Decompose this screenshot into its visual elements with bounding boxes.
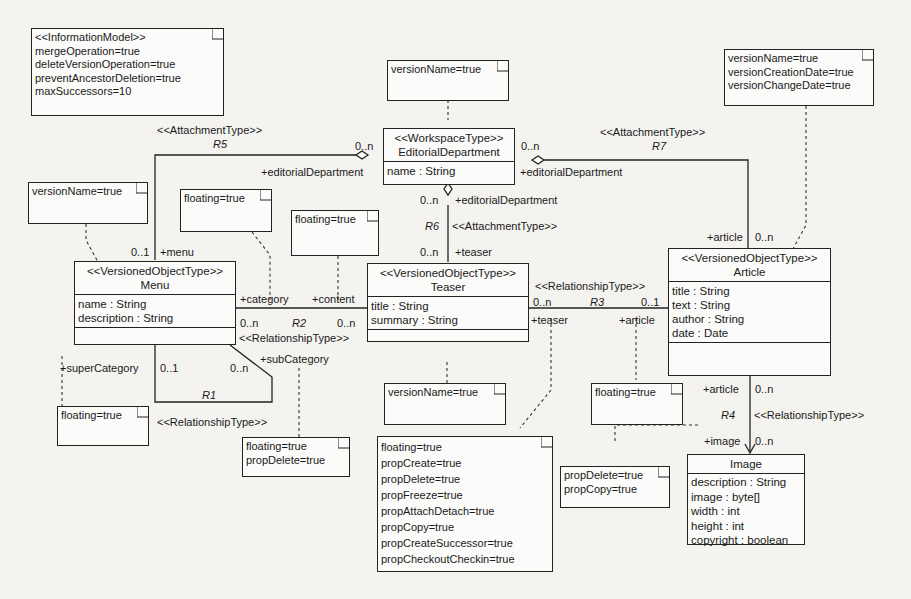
note-line: propCopy=true <box>564 483 655 497</box>
note-fold-icon <box>136 182 148 194</box>
r3-article-floating-note: floating=true <box>591 383 683 425</box>
attribute: description : String <box>78 311 232 325</box>
subcategory-note: floating=true propDelete=true <box>242 437 350 477</box>
note-fold-icon <box>671 383 683 395</box>
class-image[interactable]: Image description : String image : byte[… <box>687 454 805 545</box>
attribute: title : String <box>371 299 525 313</box>
class-attributes: title : String text : String author : St… <box>669 282 830 343</box>
r3-right-multiplicity: 0..1 <box>641 296 659 308</box>
note-line: versionName=true <box>388 386 491 400</box>
class-editorial-department[interactable]: <<WorkspaceType>> EditorialDepartment na… <box>383 128 515 185</box>
r6-ws-role: +editorialDepartment <box>455 194 557 206</box>
r6-ws-multiplicity: 0..n <box>420 194 438 206</box>
attribute: author : String <box>672 312 827 326</box>
r2-left-role: +category <box>240 293 289 305</box>
r7-stereotype: <<AttachmentType>> <box>600 126 705 138</box>
note-line: floating=true <box>61 409 134 423</box>
r3-name: R3 <box>590 296 604 308</box>
note-fold-icon <box>137 406 149 418</box>
note-fold-icon <box>494 383 506 395</box>
note-line: versionChangeDate=true <box>728 79 859 93</box>
class-header: <<WorkspaceType>> EditorialDepartment <box>384 129 514 162</box>
r5-ws-multiplicity: 0..n <box>355 140 373 152</box>
note-line: floating=true <box>295 213 364 227</box>
r4-top-multiplicity: 0..n <box>755 383 773 395</box>
r2-right-role: +content <box>312 293 355 305</box>
information-model-note: <<InformationModel>> mergeOperation=true… <box>31 28 224 116</box>
class-header: Image <box>688 455 804 474</box>
note-line: propDelete=true <box>246 454 335 468</box>
note-fold-icon <box>658 466 670 478</box>
attribute: name : String <box>387 164 511 178</box>
note-fold-icon <box>541 436 553 448</box>
note-line: preventAncestorDeletion=true <box>35 72 209 86</box>
teaser-version-note: versionName=true <box>384 383 506 425</box>
class-attributes: title : String summary : String <box>368 297 528 330</box>
r3-right-role: +article <box>619 314 655 326</box>
class-operations <box>669 343 830 357</box>
article-version-note: versionName=true versionCreationDate=tru… <box>724 49 874 106</box>
r5-ws-role: +editorialDepartment <box>261 166 363 178</box>
note-line: propCreate=true <box>381 455 538 471</box>
r4-bottom-multiplicity: 0..n <box>755 435 773 447</box>
r1-left-role: +superCategory <box>60 362 139 374</box>
note-line: versionName=true <box>728 52 859 66</box>
r6-teaser-multiplicity: 0..n <box>420 246 438 258</box>
r1-right-multiplicity: 0..n <box>230 362 248 374</box>
note-line: versionName=true <box>32 185 133 199</box>
r6-teaser-role: +teaser <box>455 246 492 258</box>
class-operations <box>368 330 528 344</box>
attribute: text : String <box>672 298 827 312</box>
note-line: versionName=true <box>391 63 494 77</box>
note-fold-icon <box>367 210 379 222</box>
attribute: copyright : boolean <box>691 533 801 548</box>
r3-teaser-properties-note: floating=true propCreate=true propDelete… <box>377 436 553 572</box>
attribute: date : Date <box>672 326 827 340</box>
class-header: <<VersionedObjectType>> Menu <box>75 262 235 295</box>
r4-bottom-role: +image <box>704 435 740 447</box>
r2-stereotype: <<RelationshipType>> <box>239 332 349 344</box>
note-line: floating=true <box>381 439 538 455</box>
r7-name: R7 <box>652 140 666 152</box>
r7-article-multiplicity: 0..n <box>755 231 773 243</box>
class-attributes: description : String image : byte[] widt… <box>688 474 804 549</box>
r1-left-multiplicity: 0..1 <box>160 362 178 374</box>
r1-stereotype: <<RelationshipType>> <box>157 416 267 428</box>
attribute: height : int <box>691 519 801 534</box>
class-article[interactable]: <<VersionedObjectType>> Article title : … <box>668 248 831 376</box>
class-attributes: name : String description : String <box>75 295 235 328</box>
class-menu[interactable]: <<VersionedObjectType>> Menu name : Stri… <box>74 261 236 345</box>
class-teaser[interactable]: <<VersionedObjectType>> Teaser title : S… <box>367 263 529 342</box>
r5-stereotype: <<AttachmentType>> <box>157 124 262 136</box>
r1-name: R1 <box>202 389 216 401</box>
r5-menu-role: +menu <box>160 246 194 258</box>
note-line: floating=true <box>246 440 335 454</box>
note-line: propDelete=true <box>381 471 538 487</box>
note-line: deleteVersionOperation=true <box>35 58 209 72</box>
class-operations <box>75 328 235 342</box>
note-line: <<InformationModel>> <box>35 31 209 45</box>
note-line: versionCreationDate=true <box>728 66 859 80</box>
attribute: image : byte[] <box>691 490 801 505</box>
class-name: Article <box>672 265 827 279</box>
menu-version-note: versionName=true <box>28 182 148 224</box>
note-line: floating=true <box>184 192 257 206</box>
class-stereotype: <<VersionedObjectType>> <box>78 264 232 278</box>
class-stereotype: <<VersionedObjectType>> <box>672 251 827 265</box>
note-fold-icon <box>212 28 224 40</box>
r7-ws-multiplicity: 0..n <box>521 140 539 152</box>
content-floating-note: floating=true <box>291 210 379 256</box>
note-line: propCopy=true <box>381 519 538 535</box>
note-line: maxSuccessors=10 <box>35 85 209 99</box>
r6-stereotype: <<AttachmentType>> <box>452 220 557 232</box>
class-name: Menu <box>78 278 232 292</box>
r4-name: R4 <box>721 409 735 421</box>
r4-image-note: propDelete=true propCopy=true <box>560 466 670 508</box>
class-stereotype: <<VersionedObjectType>> <box>371 266 525 280</box>
class-name: EditorialDepartment <box>387 145 511 159</box>
workspace-note: versionName=true <box>387 60 509 101</box>
class-header: <<VersionedObjectType>> Article <box>669 249 830 282</box>
note-line: mergeOperation=true <box>35 45 209 59</box>
r6-name: R6 <box>425 220 439 232</box>
class-name: Image <box>691 457 801 471</box>
